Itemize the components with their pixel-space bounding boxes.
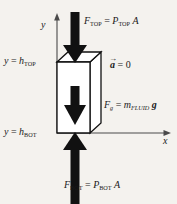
acceleration-symbol: →a (110, 60, 115, 70)
f-gravity-mass-subscript: FLUID (131, 104, 149, 111)
x-axis-label: x (163, 136, 167, 146)
f-gravity-label: Fg = mFLUID g (104, 100, 157, 110)
f-top-f-subscript: TOP (90, 20, 102, 27)
f-top-p-subscript: TOP (118, 20, 130, 27)
f-bot-f-subscript: BOT (70, 184, 82, 191)
fluid-element-free-body-diagram: y x y = hTOP y = hBOT FTOP = PTOP A →a =… (0, 0, 177, 204)
level-top-prefix: y (4, 55, 8, 66)
f-gravity-equals: = (116, 99, 122, 110)
acceleration-equals: = (118, 59, 124, 70)
f-gravity-f-subscript: g (110, 104, 113, 111)
f-bot-equals: = (85, 179, 91, 190)
level-top-subscript: TOP (24, 60, 36, 67)
f-bot-label: FBOT = PBOT A (64, 180, 120, 190)
f-top-area: A (133, 15, 139, 26)
f-gravity-g: g (152, 99, 157, 110)
f-bot-arrow (63, 132, 87, 204)
level-label-top: y = hTOP (4, 56, 36, 66)
level-label-bot: y = hBOT (4, 127, 36, 137)
acceleration-value: 0 (126, 59, 131, 70)
level-top-equals: = (11, 55, 17, 66)
level-bot-prefix: y (4, 126, 8, 137)
level-bot-subscript: BOT (24, 131, 36, 138)
f-gravity-mass: m (124, 99, 131, 110)
f-top-label: FTOP = PTOP A (84, 16, 139, 26)
vector-arrow-icon: → (109, 55, 117, 63)
f-bot-area: A (114, 179, 120, 190)
acceleration-annotation: →a = 0 (110, 60, 131, 70)
f-bot-p-subscript: BOT (99, 184, 111, 191)
y-axis-label: y (41, 20, 45, 30)
f-top-equals: = (104, 15, 110, 26)
level-bot-equals: = (11, 126, 17, 137)
